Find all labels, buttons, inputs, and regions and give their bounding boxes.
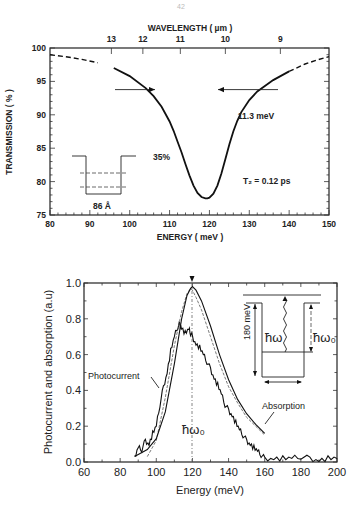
x-tick-label: 110 [163, 219, 177, 229]
fwhm-indicator [115, 87, 278, 92]
x-tick-label: 80 [114, 466, 126, 478]
arrow-left-icon [218, 87, 224, 92]
top-axis-title: WAVELENGTH ( µm ) [148, 23, 233, 33]
arrow-up-icon [309, 304, 313, 309]
series-line-dashed-left [50, 55, 98, 63]
absorption-leader [265, 412, 274, 424]
x-axis-title: ENERGY ( meV ) [157, 232, 224, 242]
series-line-photocurrent [135, 322, 337, 461]
x-axis-title: Energy (meV) [176, 484, 244, 496]
well-width-label: 86 Å [93, 201, 111, 211]
wavelength-tick-label: 9 [278, 34, 283, 44]
x-tick-label: 120 [183, 466, 201, 478]
transmission-chart: WAVELENGTH ( µm ) 8090100110120130140150… [4, 23, 336, 242]
y-tick-label: 75 [37, 210, 47, 220]
x-tick-label: 140 [219, 466, 237, 478]
arrow-down-icon [309, 347, 313, 352]
fwhm-label: 11.3 meV [238, 111, 275, 121]
photocurrent-leader [151, 377, 159, 388]
y-tick-label: 0.2 [66, 420, 81, 432]
arrow-right-icon [149, 87, 155, 92]
x-tick-label: 150 [322, 219, 336, 229]
y-tick-label: 90 [37, 110, 47, 120]
y-tick-label: 0.8 [66, 313, 81, 325]
x-tick-label: 200 [328, 466, 346, 478]
y-tick-label: 85 [37, 143, 47, 153]
y-axis-title: TRANSMISSION ( % ) [4, 89, 14, 175]
figure: 42 WAVELENGTH ( µm ) 8090100110120130140… [0, 0, 363, 520]
y-tick-label: 1.0 [66, 277, 81, 289]
t2-label: T₂ = 0.12 ps [243, 176, 291, 186]
x-tick-label: 120 [202, 219, 216, 229]
y-tick-label: 95 [37, 76, 47, 86]
photon-wave-icon [284, 298, 287, 352]
arrow-right-icon [297, 380, 302, 384]
arrow-up-icon [283, 296, 288, 301]
y-tick-label: 0.6 [66, 349, 81, 361]
wavelength-tick-label: 12 [138, 34, 148, 44]
wavelength-tick-label: 13 [107, 34, 117, 44]
y-tick-label: 80 [37, 177, 47, 187]
quantum-well-inset [72, 156, 136, 194]
series-line-dashed-right [289, 57, 329, 72]
hw-label: ħω [265, 330, 282, 345]
x-tick-label: 140 [282, 219, 296, 229]
y-tick-label: 100 [32, 43, 46, 53]
arrow-down-icon [253, 371, 257, 376]
x-tick-label: 80 [45, 219, 55, 229]
x-tick-label: 100 [147, 466, 165, 478]
x-tick-label: 100 [123, 219, 137, 229]
wavelength-tick-label: 10 [221, 34, 231, 44]
peak-arrow-icon [190, 276, 195, 282]
wavelength-tick-label: 11 [176, 34, 185, 44]
y-tick-label: 0.0 [66, 456, 81, 468]
x-tick-label: 90 [85, 219, 95, 229]
well-profile [246, 303, 320, 377]
hw0-marker-label: ħω₀ [182, 422, 205, 437]
hw0-label: ħω₀ [313, 330, 336, 345]
y-axis-title: Photocurrent and absorption (a.u) [42, 290, 54, 455]
absorption-label: Absorption [262, 401, 305, 411]
barrier-label: 35% [153, 152, 170, 162]
depth-label: 180 meV [242, 304, 252, 340]
well-profile [72, 156, 136, 194]
photocurrent-label: Photocurrent [88, 371, 140, 381]
photocurrent-chart: 6080100120140160180200 0.00.20.40.60.81.… [42, 276, 346, 496]
x-tick-label: 160 [256, 466, 274, 478]
page-number: 42 [177, 3, 185, 10]
x-tick-label: 180 [292, 466, 310, 478]
x-tick-label: 130 [242, 219, 256, 229]
arrow-left-icon [264, 380, 269, 384]
y-tick-label: 0.4 [66, 384, 81, 396]
arrow-up-icon [253, 304, 257, 309]
